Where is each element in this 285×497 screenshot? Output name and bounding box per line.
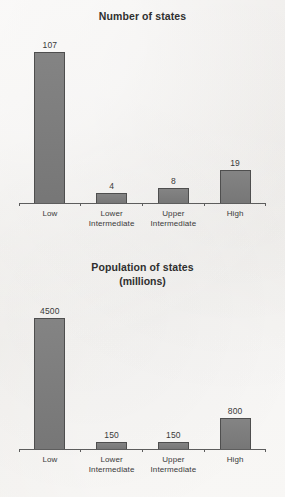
bars-container: 107 4 8 19 — [19, 27, 266, 204]
axis-label-line1: Lower — [100, 209, 122, 218]
bar — [220, 418, 251, 450]
bar-slot: 107 — [19, 27, 81, 204]
axis-label-low: Low — [19, 455, 81, 475]
axis-label-line1: Upper — [162, 209, 184, 218]
axis-label-line1: Upper — [162, 455, 184, 464]
bar-slot: 150 — [81, 292, 143, 450]
chart-subtitle: (millions) — [0, 274, 285, 288]
axis-label-low: Low — [19, 209, 81, 229]
axis-label-line1: High — [227, 455, 244, 464]
figure-sheet: Number of states 107 4 8 19 — [0, 0, 285, 497]
bar-slot: 8 — [143, 27, 205, 204]
bar-value-label: 19 — [230, 158, 240, 168]
chart-number-of-states: Number of states 107 4 8 19 — [0, 0, 285, 248]
bar-slot: 4500 — [19, 292, 81, 450]
bar-value-label: 800 — [228, 406, 243, 416]
axis-label-high: High — [204, 209, 266, 229]
bars-container: 4500 150 150 800 — [19, 292, 266, 450]
bar-value-label: 150 — [104, 430, 119, 440]
bar — [220, 170, 251, 204]
axis-label-upper-intermediate: Upper Intermediate — [143, 455, 205, 475]
chart-title: Number of states — [0, 0, 285, 23]
x-axis-labels: Low Lower Intermediate Upper Intermediat… — [19, 450, 266, 475]
bar-value-label: 4500 — [40, 306, 60, 316]
x-axis-labels: Low Lower Intermediate Upper Intermediat… — [19, 204, 266, 229]
bar — [158, 188, 189, 204]
chart-title: Population of states — [0, 249, 285, 274]
axis-label-line2: Intermediate — [81, 465, 143, 475]
bar-value-label: 150 — [166, 430, 181, 440]
bar — [34, 318, 65, 450]
axis-label-upper-intermediate: Upper Intermediate — [143, 209, 205, 229]
axis-label-line1: High — [227, 209, 244, 218]
axis-label-line2: Intermediate — [143, 219, 205, 229]
bar — [34, 52, 65, 204]
chart-population-of-states: Population of states (millions) 4500 150… — [0, 249, 285, 497]
axis-label-line1: Low — [42, 455, 57, 464]
bar-slot: 19 — [204, 27, 266, 204]
axis-label-line1: Low — [42, 209, 57, 218]
bar-slot: 4 — [81, 27, 143, 204]
axis-label-line1: Lower — [100, 455, 122, 464]
bar-value-label: 4 — [109, 181, 114, 191]
bar-value-label: 8 — [171, 176, 176, 186]
bar-value-label: 107 — [42, 40, 57, 50]
plot-area: 107 4 8 19 — [19, 27, 266, 204]
axis-label-lower-intermediate: Lower Intermediate — [81, 455, 143, 475]
plot-area: 4500 150 150 800 — [19, 292, 266, 450]
axis-label-line2: Intermediate — [143, 465, 205, 475]
bar-slot: 150 — [143, 292, 205, 450]
axis-label-line2: Intermediate — [81, 219, 143, 229]
axis-label-high: High — [204, 455, 266, 475]
bar-slot: 800 — [204, 292, 266, 450]
axis-label-lower-intermediate: Lower Intermediate — [81, 209, 143, 229]
